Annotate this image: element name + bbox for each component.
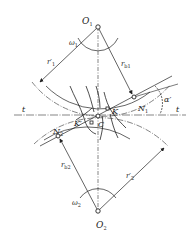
label-t-right: t [176, 105, 180, 114]
label-O1: O1 [82, 16, 93, 27]
point-K-prime [90, 121, 93, 124]
point-N1 [132, 95, 136, 99]
label-omega1: ω1 [69, 39, 78, 48]
label-rb1: rb1 [121, 60, 131, 69]
rb2-arrow [60, 139, 98, 211]
pitch-circle-1 [32, 82, 170, 116]
label-t-left: t [22, 105, 26, 114]
label-O2: O2 [96, 220, 107, 231]
point-O2 [96, 209, 100, 213]
label-omega2: ω2 [72, 199, 81, 208]
label-K: K [111, 107, 119, 116]
gear-meshing-diagram: O1 O2 ω1 ω2 r′1 r′2 rb1 rb2 N1 N2 K K′ C… [0, 0, 196, 238]
label-C: C [98, 120, 104, 129]
point-O1 [96, 25, 100, 29]
line-of-action-ext [134, 84, 178, 97]
label-r1-pitch: r′1 [47, 58, 55, 67]
point-K [106, 107, 109, 110]
label-K-prime: K′ [73, 119, 82, 128]
label-N2: N2 [52, 127, 63, 137]
rb1-arrow [98, 27, 132, 94]
label-r2-pitch: r′2 [126, 172, 134, 181]
label-N1: N1 [137, 104, 148, 114]
label-rb2: rb2 [61, 161, 71, 170]
label-alpha: α′ [164, 95, 171, 104]
point-C [96, 114, 100, 118]
r1-pitch-arrow [40, 27, 98, 82]
